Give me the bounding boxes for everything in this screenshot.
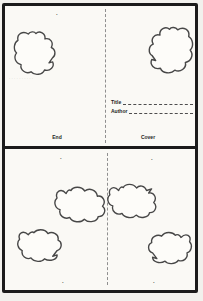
page-mark-1: ·	[60, 156, 62, 160]
bottom-panel: · · · ·	[5, 149, 195, 290]
author-label: Author	[111, 108, 127, 114]
scanned-worksheet-page: · ·········· Title Author	[0, 0, 203, 301]
thought-cloud-mid-right	[107, 177, 157, 224]
footer-label-cover: Cover	[136, 134, 160, 140]
footer-label-end: End	[45, 134, 69, 140]
thought-cloud-top-right	[146, 23, 194, 75]
title-rule-line	[123, 99, 193, 105]
title-label: Title	[111, 99, 121, 105]
page-mark-2: ·	[151, 157, 153, 161]
page-mark-3: ·	[62, 280, 64, 284]
thought-cloud-bottom-left	[17, 224, 65, 264]
thought-cloud-bottom-right	[144, 228, 193, 265]
title-line-row: Title	[111, 96, 193, 105]
author-rule-line	[129, 108, 193, 114]
fold-line-top	[105, 9, 106, 143]
page-mark-top: ·	[56, 12, 58, 16]
page-mark-4: ·	[153, 280, 155, 284]
author-line-row: Author	[111, 105, 193, 114]
cover-lines-block: Title Author	[111, 96, 193, 114]
thought-cloud-top-left	[13, 26, 58, 78]
page-frame: · ·········· Title Author	[2, 3, 198, 293]
faint-dots-row: ··········	[9, 77, 34, 81]
top-panel: · ·········· Title Author	[5, 6, 195, 146]
thought-cloud-mid-left	[54, 179, 106, 229]
